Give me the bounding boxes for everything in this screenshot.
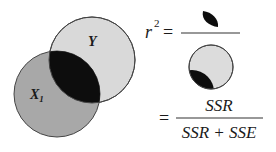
equals-sign-1: =: [163, 22, 173, 42]
label-y: Y: [88, 34, 98, 49]
venn-diagram: Y X1: [14, 17, 135, 137]
r-squared-venn-figure: Y X1 r 2 = = SSR SSR + SSE: [0, 0, 276, 152]
numerator-ssr: SSR: [205, 96, 233, 115]
r-symbol: r: [145, 22, 153, 42]
denominator-ssr-plus-sse: SSR + SSE: [182, 123, 257, 142]
overlap-shape-icon: [203, 11, 218, 27]
exponent-2: 2: [154, 17, 160, 29]
equals-sign-2: =: [159, 108, 169, 128]
formula-ssr: = SSR SSR + SSE: [159, 96, 263, 142]
